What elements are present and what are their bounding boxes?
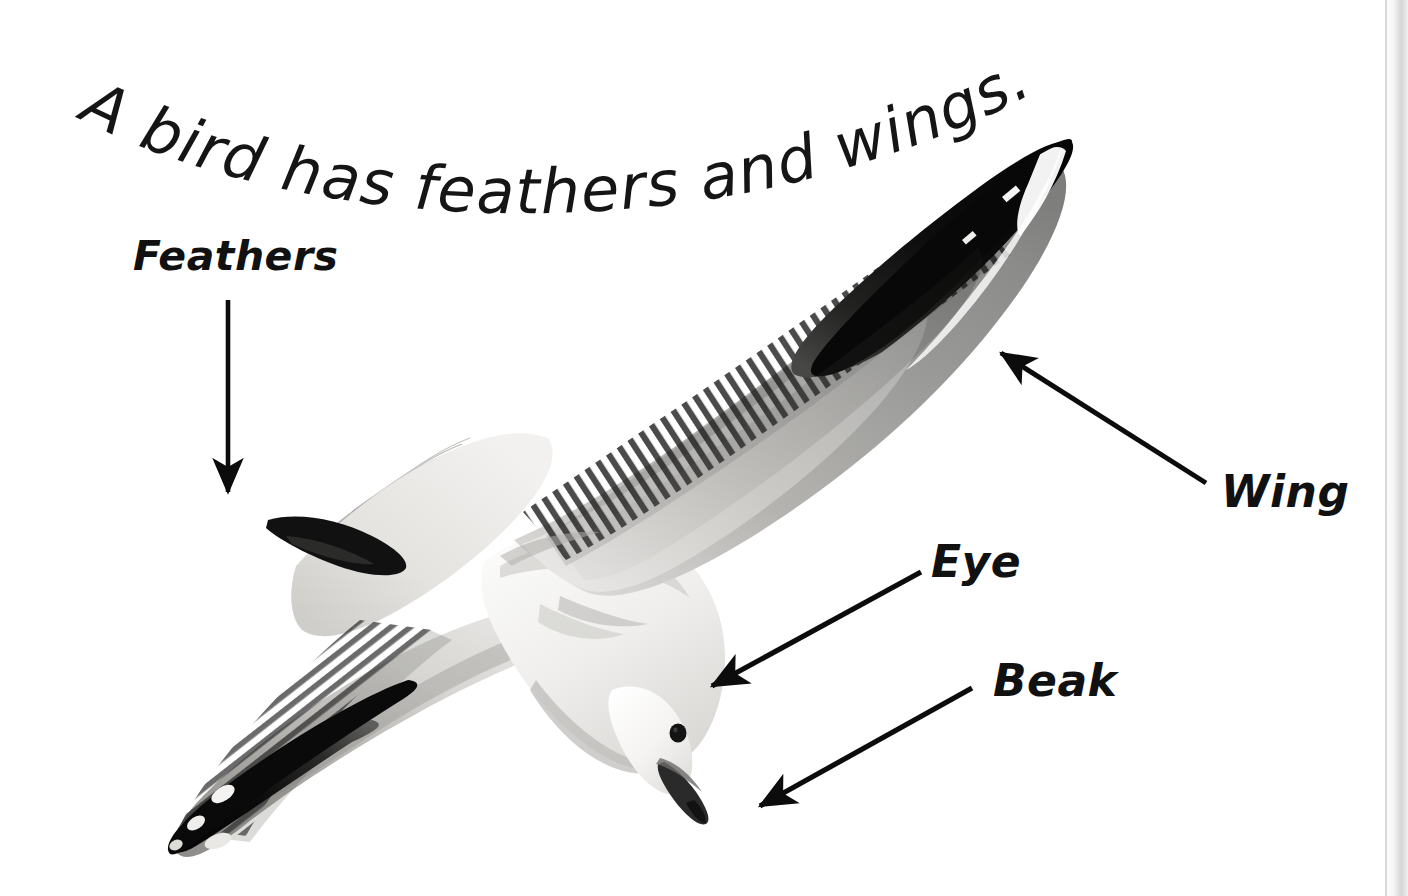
page-title-textpath: A bird has feathers and wings. [68, 41, 1042, 228]
label-feathers: Feathers [133, 232, 339, 280]
page-title: A bird has feathers and wings. [0, 0, 1408, 260]
wing-arrow [1001, 353, 1206, 483]
eye-arrow [712, 572, 921, 686]
page-title-text: A bird has feathers and wings. [68, 41, 1042, 228]
label-eye: Eye [931, 536, 1021, 587]
label-wing: Wing [1221, 466, 1349, 517]
label-beak: Beak [993, 655, 1117, 706]
beak-arrow [760, 688, 972, 806]
book-page: A bird has feathers and wings. Feathers … [0, 0, 1408, 896]
